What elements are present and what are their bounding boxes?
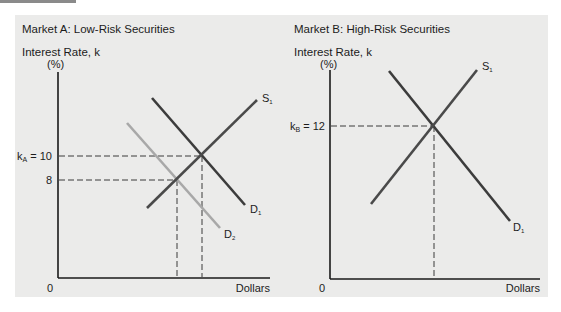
market-b-demand-label: D1 bbox=[513, 221, 525, 234]
market-b-rate-label: kB = 12 bbox=[290, 120, 325, 133]
market-b-x-axis-label: Dollars bbox=[506, 282, 541, 294]
market-b-origin-label: 0 bbox=[319, 282, 325, 294]
market-a-chart: Market A: Low-Risk Securities Interest R… bbox=[17, 23, 273, 294]
market-a-y-axis-label: Interest Rate, k bbox=[22, 46, 100, 58]
market-b-y-axis-unit: (%) bbox=[320, 58, 337, 70]
market-b-title: Market B: High-Risk Securities bbox=[294, 23, 450, 35]
market-b-demand-d1-curve bbox=[389, 71, 510, 221]
market-a-rate-high-label: kA = 10 bbox=[17, 150, 52, 163]
market-a-demand-d2-curve bbox=[127, 123, 220, 228]
market-a-demand1-label: D1 bbox=[250, 203, 262, 216]
market-a-supply-s1-curve bbox=[147, 100, 257, 208]
market-a-x-axis-label: Dollars bbox=[236, 282, 271, 294]
market-a-rate-low-label: 8 bbox=[46, 174, 52, 186]
market-a-y-axis-unit: (%) bbox=[47, 58, 64, 70]
market-b-supply-label: S1 bbox=[482, 60, 493, 73]
market-a-demand2-label: D2 bbox=[224, 228, 236, 241]
market-b-y-axis-label: Interest Rate, k bbox=[294, 46, 372, 58]
market-b-supply-s1-curve bbox=[371, 70, 477, 204]
market-a-origin-label: 0 bbox=[47, 282, 53, 294]
market-a-supply-label: S1 bbox=[262, 92, 273, 105]
market-diagrams: Market A: Low-Risk Securities Interest R… bbox=[0, 0, 561, 312]
market-a-title: Market A: Low-Risk Securities bbox=[22, 23, 175, 35]
market-b-chart: Market B: High-Risk Securities Interest … bbox=[290, 23, 540, 294]
